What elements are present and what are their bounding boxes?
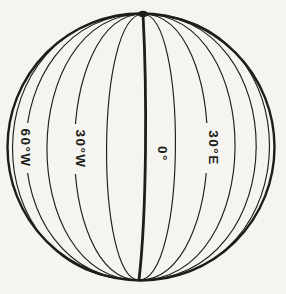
longitude-label: 0° xyxy=(155,146,170,162)
north-pole-dot xyxy=(138,11,148,17)
longitude-label: 30°W xyxy=(73,129,88,168)
longitude-label: 30°E xyxy=(206,130,221,165)
globe-diagram: 60°W30°W0°30°E xyxy=(0,0,286,294)
longitude-label: 60°W xyxy=(18,128,33,167)
globe-figure: 60°W30°W0°30°E xyxy=(0,0,286,294)
